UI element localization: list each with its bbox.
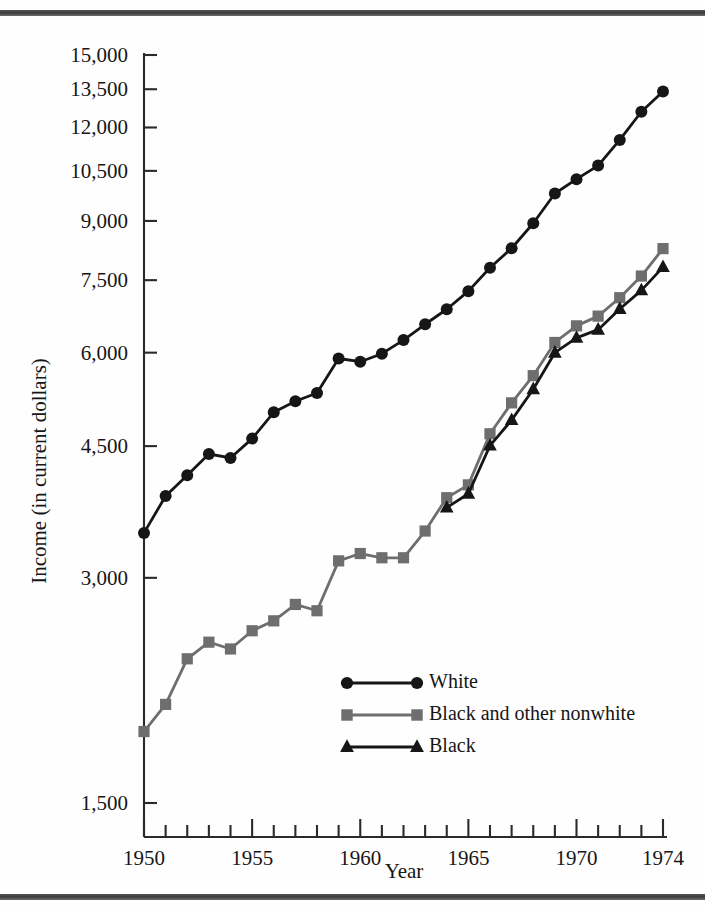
income-by-race-line-chart: 15,00013,50012,00010,5009,0007,5006,0004… <box>0 16 705 894</box>
data-point-square <box>225 643 236 654</box>
legend-label: Black and other nonwhite <box>429 702 635 724</box>
data-point-square <box>420 525 431 536</box>
data-point-square <box>182 653 193 664</box>
legend-label: Black <box>429 734 476 756</box>
series-line <box>447 267 663 508</box>
y-tick-label: 9,000 <box>81 209 128 233</box>
data-point-square <box>571 320 582 331</box>
data-series-group <box>138 85 670 737</box>
data-point-square <box>506 397 517 408</box>
data-point-square <box>355 548 366 559</box>
data-point-square <box>138 726 149 737</box>
data-point-circle <box>419 318 431 330</box>
data-point-circle <box>506 242 518 254</box>
data-point-square <box>268 615 279 626</box>
data-point-circle <box>268 406 280 418</box>
legend-item-white[interactable]: White <box>341 670 478 692</box>
data-point-circle <box>376 348 388 360</box>
data-point-triangle <box>656 259 670 272</box>
data-point-circle <box>462 285 474 297</box>
series-black <box>440 259 670 512</box>
chart-canvas: 15,00013,50012,00010,5009,0007,5006,0004… <box>0 16 705 894</box>
data-point-square <box>376 552 387 563</box>
series-line <box>144 249 663 732</box>
y-tick-label: 13,500 <box>70 77 128 101</box>
data-point-square <box>411 709 422 720</box>
y-tick-labels: 15,00013,50012,00010,5009,0007,5006,0004… <box>70 43 128 815</box>
x-tick-label: 1970 <box>556 846 598 870</box>
data-point-square <box>593 311 604 322</box>
x-tick-label: 1960 <box>339 846 381 870</box>
data-point-square <box>657 243 668 254</box>
data-point-square <box>311 605 322 616</box>
data-point-circle <box>181 469 193 481</box>
data-point-circle <box>225 452 237 464</box>
data-point-circle <box>571 173 583 185</box>
data-point-circle <box>311 387 323 399</box>
y-tick-label: 7,500 <box>81 268 128 292</box>
data-point-circle <box>138 527 150 539</box>
data-point-circle <box>441 303 453 315</box>
data-point-circle <box>333 353 345 365</box>
data-point-square <box>247 625 258 636</box>
data-point-square <box>636 270 647 281</box>
y-tick-label: 3,000 <box>81 566 128 590</box>
data-point-circle <box>246 433 258 445</box>
data-point-circle <box>411 677 423 689</box>
y-axis-title: Income (in current dollars) <box>27 358 51 584</box>
data-point-circle <box>398 334 410 346</box>
data-point-square <box>528 370 539 381</box>
x-axis-title: Year <box>385 859 424 883</box>
data-point-square <box>203 637 214 648</box>
data-point-circle <box>614 134 626 146</box>
y-tick-label: 10,500 <box>70 159 128 183</box>
y-tick-label: 1,500 <box>81 791 128 815</box>
legend-label: White <box>429 670 478 692</box>
data-point-circle <box>203 448 215 460</box>
x-tick-label: 1950 <box>123 846 165 870</box>
series-line <box>144 91 663 532</box>
y-tick-label: 4,500 <box>81 434 128 458</box>
x-tick-label: 1965 <box>447 846 489 870</box>
chart-legend: WhiteBlack and other nonwhiteBlack <box>340 670 635 756</box>
data-point-circle <box>354 356 366 368</box>
x-tick-label: 1974 <box>642 846 685 870</box>
data-point-circle <box>341 677 353 689</box>
data-point-circle <box>635 106 647 118</box>
data-point-circle <box>527 217 539 229</box>
data-point-circle <box>592 160 604 172</box>
data-point-circle <box>657 85 669 97</box>
legend-item-black-and-other-nonwhite[interactable]: Black and other nonwhite <box>341 702 635 724</box>
data-point-square <box>160 699 171 710</box>
data-point-square <box>341 709 352 720</box>
y-tick-label: 6,000 <box>81 341 128 365</box>
data-point-square <box>290 599 301 610</box>
y-tick-label: 12,000 <box>70 115 128 139</box>
data-point-circle <box>549 187 561 199</box>
data-point-circle <box>484 262 496 274</box>
data-point-circle <box>289 395 301 407</box>
series-black-and-other-nonwhite <box>138 243 668 737</box>
data-point-square <box>398 552 409 563</box>
data-point-square <box>333 555 344 566</box>
y-tick-label: 15,000 <box>70 43 128 67</box>
series-white <box>138 85 669 538</box>
bottom-rule <box>0 894 705 900</box>
legend-item-black[interactable]: Black <box>340 734 476 756</box>
x-tick-label: 1955 <box>231 846 273 870</box>
data-point-square <box>484 428 495 439</box>
data-point-circle <box>160 490 172 502</box>
